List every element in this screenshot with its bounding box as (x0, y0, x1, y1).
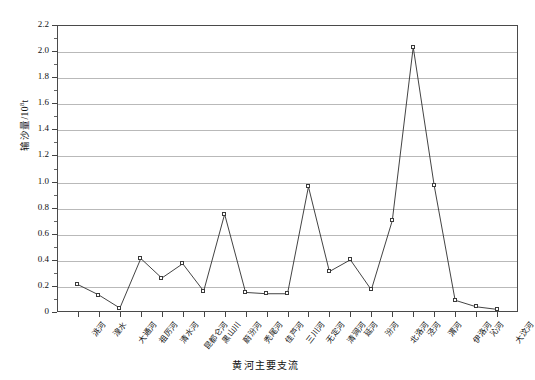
gridline (58, 156, 517, 157)
x-axis-tick (497, 312, 498, 317)
gridline (58, 104, 517, 105)
x-axis-tick (329, 312, 330, 317)
y-axis-minor-tick (54, 64, 57, 65)
x-axis-tick (225, 312, 226, 317)
y-axis-minor-tick (54, 116, 57, 117)
x-axis-tick (288, 312, 289, 317)
y-axis-tick (52, 129, 57, 130)
y-axis-minor-tick (54, 299, 57, 300)
x-axis-tick (392, 312, 393, 317)
x-axis-tick-label: 祖厉河 (155, 319, 179, 345)
x-axis-tick (371, 312, 372, 317)
y-axis-minor-tick (54, 195, 57, 196)
y-axis-minor-tick (54, 169, 57, 170)
y-axis-minor-tick (54, 142, 57, 143)
gridline (58, 130, 517, 131)
y-axis-tick (52, 25, 57, 26)
x-axis-tick-label: 湟水 (110, 319, 129, 339)
y-axis-tick (52, 260, 57, 261)
y-axis-tick (52, 103, 57, 104)
gridline (58, 183, 517, 184)
x-axis-tick-label: 三川河 (302, 319, 326, 345)
gridline (58, 78, 517, 79)
y-axis-tick (52, 51, 57, 52)
x-axis-tick (413, 312, 414, 317)
x-axis-tick-label: 佳芦河 (281, 319, 305, 345)
x-axis-tick-label: 泾河 (425, 319, 444, 339)
x-axis-tick (99, 312, 100, 317)
y-axis-tick (52, 77, 57, 78)
y-axis-tick-label: 1.0 (15, 176, 49, 186)
x-axis-tick (141, 312, 142, 317)
x-axis-tick-label: 大通河 (134, 319, 158, 345)
x-axis-tick (476, 312, 477, 317)
x-axis-tick (246, 312, 247, 317)
x-axis-tick-label: 延河 (362, 319, 381, 339)
gridline (58, 287, 517, 288)
gridline (58, 209, 517, 210)
y-axis-tick-label: 0.4 (15, 254, 49, 264)
gridline (58, 261, 517, 262)
y-axis-tick-label: 1.2 (15, 149, 49, 159)
y-axis-tick-label: 1.4 (15, 123, 49, 133)
y-axis-tick (52, 234, 57, 235)
y-axis-tick-label: 0 (15, 306, 49, 316)
x-axis-tick-label: 汾河 (383, 319, 402, 339)
x-axis-tick-label: 渭河 (445, 319, 464, 339)
x-axis-tick (434, 312, 435, 317)
y-axis-tick (52, 155, 57, 156)
x-axis-tick-label: 蔚汾河 (239, 319, 263, 345)
y-axis-minor-tick (54, 90, 57, 91)
y-axis-tick (52, 208, 57, 209)
y-axis-tick-label: 1.6 (15, 97, 49, 107)
y-axis-tick-label: 2.2 (15, 19, 49, 29)
x-axis-tick (204, 312, 205, 317)
y-axis-minor-tick (54, 38, 57, 39)
y-axis-tick-label: 0.8 (15, 202, 49, 212)
x-axis-tick (78, 312, 79, 317)
x-axis-tick (183, 312, 184, 317)
x-axis-tick-label: 洮河 (89, 319, 108, 339)
x-axis-tick-label: 秃尾河 (260, 319, 284, 345)
y-axis-minor-tick (54, 247, 57, 248)
x-axis-tick (455, 312, 456, 317)
y-axis-tick (52, 182, 57, 183)
x-axis-tick-label: 清水河 (176, 319, 200, 345)
y-axis-tick (52, 286, 57, 287)
x-axis-title: 黄河主要支流 (0, 357, 532, 372)
y-axis-tick-label: 0.6 (15, 228, 49, 238)
plot-area (57, 25, 518, 312)
x-axis-tick (267, 312, 268, 317)
x-axis-tick (162, 312, 163, 317)
y-axis-tick (52, 312, 57, 313)
x-axis-tick (308, 312, 309, 317)
y-axis-minor-tick (54, 273, 57, 274)
x-axis-tick (120, 312, 121, 317)
y-axis-tick-label: 2.0 (15, 45, 49, 55)
x-axis-tick-label: 大汶河 (511, 319, 535, 345)
gridline (58, 235, 517, 236)
y-axis-tick-label: 1.8 (15, 71, 49, 81)
y-axis-minor-tick (54, 221, 57, 222)
x-axis-tick-label: 无定河 (323, 319, 347, 345)
y-axis-tick-label: 0.2 (15, 280, 49, 290)
x-axis-tick (350, 312, 351, 317)
gridline (58, 52, 517, 53)
